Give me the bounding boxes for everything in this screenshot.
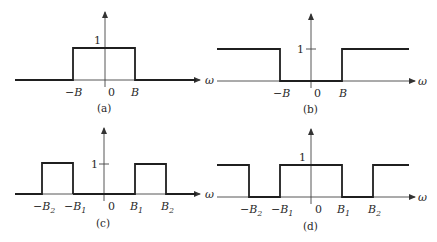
gain-label: 1 — [91, 158, 98, 171]
omega-label: ω — [205, 74, 214, 87]
tick-b2: B2 — [160, 200, 174, 215]
panel-d-bandstop: 1 ω −B2 −B1 0 B1 B2 (d) — [217, 129, 427, 232]
origin-label: 0 — [315, 203, 322, 216]
response-curve — [217, 49, 409, 81]
origin-label: 0 — [108, 86, 115, 99]
tick-b: B — [130, 86, 139, 99]
tick-neg-b1: −B1 — [271, 203, 293, 218]
origin-label: 0 — [108, 200, 115, 213]
panel-a-lowpass: 1 ω −B 0 B (a) — [15, 12, 214, 114]
tick-b1: B1 — [129, 200, 143, 215]
tick-neg-b: −B — [273, 87, 290, 100]
filter-responses-figure: 1 ω −B 0 B (a) 1 ω −B 0 B (b) 1 ω −B2 −B… — [0, 0, 437, 242]
tick-neg-b2: −B2 — [240, 203, 262, 218]
origin-label: 0 — [314, 87, 321, 100]
omega-label: ω — [418, 191, 427, 204]
figure-canvas: 1 ω −B 0 B (a) 1 ω −B 0 B (b) 1 ω −B2 −B… — [0, 0, 437, 242]
omega-label: ω — [418, 75, 427, 88]
gain-label: 1 — [94, 34, 101, 47]
omega-label: ω — [205, 188, 214, 201]
tick-b: B — [338, 87, 347, 100]
response-curve — [217, 165, 409, 197]
caption-c: (c) — [96, 217, 110, 229]
panel-b-highpass: 1 ω −B 0 B (b) — [217, 14, 427, 115]
tick-b1: B1 — [336, 203, 350, 218]
response-curve — [15, 48, 196, 80]
caption-b: (b) — [303, 103, 318, 115]
tick-neg-b1: −B1 — [64, 200, 86, 215]
tick-neg-b: −B — [65, 86, 82, 99]
response-band-negative — [15, 163, 73, 194]
gain-label: 1 — [297, 43, 304, 56]
caption-d: (d) — [303, 220, 318, 232]
panel-c-bandpass: 1 ω −B2 −B1 0 B1 B2 (c) — [15, 128, 214, 229]
tick-neg-b2: −B2 — [33, 200, 55, 215]
caption-a: (a) — [97, 102, 111, 114]
tick-b2: B2 — [367, 203, 381, 218]
gain-label: 1 — [299, 151, 306, 164]
